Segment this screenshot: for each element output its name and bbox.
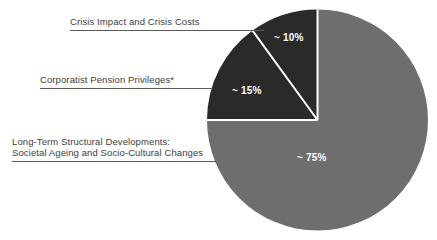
callout-label-crisis-impact: Crisis Impact and Crisis Costs — [70, 16, 200, 27]
slice-value-crisis-impact: ~ 10% — [274, 32, 304, 43]
callout-label-structural-developments-line2: Societal Ageing and Socio-Cultural Chang… — [12, 147, 203, 158]
pie-chart-figure: Crisis Impact and Crisis Costs Corporati… — [0, 0, 437, 240]
callout-label-structural-developments-line1: Long-Term Structural Developments: — [12, 136, 170, 147]
slice-value-structural-developments: ~ 75% — [297, 152, 327, 163]
pie-chart-svg: Crisis Impact and Crisis Costs Corporati… — [0, 0, 437, 240]
callout-label-pension-privileges: Corporatist Pension Privileges* — [40, 74, 174, 85]
slice-value-pension-privileges: ~ 15% — [232, 85, 262, 96]
